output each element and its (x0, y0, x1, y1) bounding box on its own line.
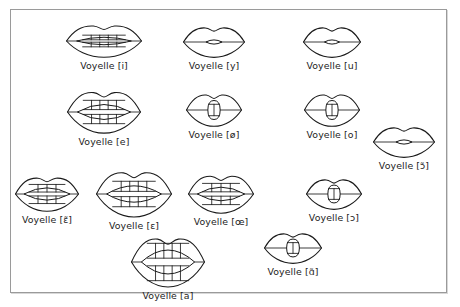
vowel-label: Voyelle [ɔ̃] (379, 160, 429, 172)
vowel-chart-page: Voyelle [i]Voyelle [y]Voyelle [u]Voyelle… (0, 0, 460, 307)
mouth-aperture (206, 40, 222, 44)
vowel-label: Voyelle [œ] (194, 216, 249, 228)
vowel-e: Voyelle [e] (56, 89, 152, 148)
mouth-outline-y (182, 25, 246, 59)
vowel-label: Voyelle [u] (306, 60, 357, 72)
vowel-label: Voyelle [a] (143, 290, 194, 302)
vowel-label: Voyelle [ɔ] (309, 212, 359, 224)
vowel-label: Voyelle [ɛ] (109, 220, 159, 232)
mouth-outline-a (130, 235, 206, 289)
mouth-outline-œ (187, 173, 255, 215)
mouth-outline-u (302, 25, 362, 59)
chart-frame: Voyelle [i]Voyelle [y]Voyelle [u]Voyelle… (10, 9, 447, 293)
vowel-y: Voyelle [y] (166, 25, 262, 72)
vowel-label: Voyelle [i] (80, 60, 128, 72)
vowel-a-nasal: Voyelle [ɑ̃] (245, 231, 341, 278)
mouth-aperture (324, 40, 339, 44)
vowel-label: Voyelle [y] (189, 60, 240, 72)
vowel-e-nasal: Voyelle [ɛ̃] (0, 175, 95, 226)
mouth-outline-ɛ̃ (14, 175, 80, 213)
mouth-aperture (396, 140, 412, 144)
mouth-outline-ɑ̃ (263, 231, 323, 265)
vowel-oe: Voyelle [œ] (173, 173, 269, 228)
mouth-outline-ɛ (95, 169, 173, 219)
mouth-aperture (77, 105, 130, 120)
vowel-epsilon: Voyelle [ɛ] (86, 169, 182, 232)
vowel-open-o-nasal: Voyelle [ɔ̃] (356, 125, 452, 172)
mouth-aperture (141, 250, 194, 274)
vowel-label: Voyelle [ɑ̃] (267, 266, 318, 278)
mouth-aperture (107, 186, 162, 202)
vowel-label: Voyelle [e] (79, 136, 130, 148)
vowel-u: Voyelle [u] (284, 25, 380, 72)
vowel-open-o: Voyelle [ɔ] (286, 177, 382, 224)
mouth-aperture (77, 37, 132, 44)
vowel-label: Voyelle [ø] (189, 129, 240, 141)
vowel-label: Voyelle [ɛ̃] (22, 214, 72, 226)
mouth-outline-o (303, 92, 361, 128)
vowel-oe-slashed: Voyelle [ø] (166, 92, 262, 141)
mouth-outline-ɔ (305, 177, 363, 211)
mouth-outline-ɔ̃ (372, 125, 436, 159)
mouth-outline-e (66, 89, 142, 135)
vowel-i: Voyelle [i] (56, 23, 152, 72)
mouth-outline-i (65, 23, 143, 59)
mouth-outline-ø (185, 92, 243, 128)
vowel-label: Voyelle [o] (307, 129, 358, 141)
vowel-a: Voyelle [a] (120, 235, 216, 302)
